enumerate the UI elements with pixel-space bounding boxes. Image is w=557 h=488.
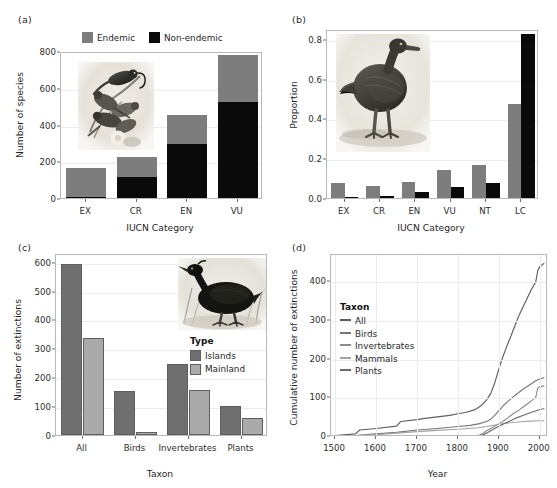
panel-a-ytick-mark: [57, 125, 60, 126]
panel-d-xtick-mark: [416, 436, 417, 439]
extinction-figure: (a) EndemicNon-endemic Number of species…: [0, 0, 557, 488]
panel-d-legend-title: Taxon: [340, 302, 414, 312]
panel-c-legend-entry: Mainland: [190, 364, 245, 375]
panel-c-xtick-mark: [241, 436, 242, 439]
panel-a-ytick-label: 600: [36, 84, 56, 94]
panel-c-ytick-mark: [52, 291, 55, 292]
panel-d-legend-label: Invertebrates: [355, 341, 414, 351]
panel-c-xtick-label: All: [76, 443, 87, 453]
panel-b-ytick-label: 0.0: [300, 194, 322, 204]
panel-a-xtick-label: EX: [80, 206, 91, 216]
panel-c-legend-title: Type: [190, 336, 245, 346]
panel-b-bar-lc-nonendemic: [521, 34, 535, 198]
panel-d-xlabel: Year: [330, 468, 545, 479]
panel-a-bar-cr-endemic: [117, 157, 157, 178]
panel-b-xtick-mark: [450, 199, 451, 202]
panel-b-xtick-label: CR: [373, 206, 385, 216]
panel-c-ytick-mark: [52, 320, 55, 321]
panel-a-legend-entry: Endemic: [82, 32, 135, 43]
panel-c-bar-plants-islands: [220, 406, 241, 435]
panel-a-ylabel: Number of species: [14, 45, 25, 185]
panel-a-xtick-mark: [186, 199, 187, 202]
panel-a-plot: [60, 52, 262, 199]
panel-c-ytick-mark: [52, 378, 55, 379]
legend-line-mammals-icon: [340, 357, 351, 359]
panel-a-bar-en-nonendemic: [167, 144, 207, 198]
panel-a-bar-vu-endemic: [218, 55, 258, 102]
panel-b-ytick-mark: [323, 199, 326, 200]
panel-a-legend: EndemicNon-endemic: [82, 32, 223, 43]
panel-d-ytick-label: 100: [304, 392, 326, 402]
panel-b: (b) Proportion IUCN Category: [278, 0, 557, 240]
panel-a-bar-ex-nonendemic: [66, 197, 106, 198]
legend-swatch-nonendemic-icon: [149, 32, 160, 43]
panel-b-xtick-label: VU: [444, 206, 456, 216]
panel-b-xtick-mark: [520, 199, 521, 202]
panel-a-ytick-mark: [57, 52, 60, 53]
panel-b-xlabel: IUCN Category: [326, 222, 536, 233]
panel-d-ytick-mark: [327, 319, 330, 320]
panel-c-ytick-label: 100: [31, 402, 51, 412]
panel-c-xtick-label: Invertebrates: [159, 443, 217, 453]
panel-c-legend: TypeIslandsMainland: [190, 336, 245, 377]
panel-d-legend-entry: Plants: [340, 366, 414, 376]
panel-a-bar-ex-endemic: [66, 168, 106, 196]
panel-d-ytick-label: 0: [304, 431, 326, 441]
panel-d-xtick-label: 1900: [487, 443, 509, 453]
panel-c-ytick-label: 300: [31, 344, 51, 354]
panel-a: (a) EndemicNon-endemic Number of species…: [0, 0, 278, 240]
panel-a-ytick-mark: [57, 162, 60, 163]
panel-d: (d) Cumulative number of extinctions Yea…: [278, 240, 557, 488]
panel-b-bar-cr-endemic: [366, 186, 380, 198]
panel-b-bar-cr-nonendemic: [380, 196, 394, 198]
panel-c-ytick-label: 600: [31, 258, 51, 268]
panel-c-ytick-mark: [52, 407, 55, 408]
panel-d-xtick-label: 1600: [364, 443, 386, 453]
legend-swatch-endemic-icon: [82, 32, 93, 43]
panel-a-xtick-mark: [85, 199, 86, 202]
panel-c-ytick-mark: [52, 262, 55, 263]
panel-c-xtick-label: Plants: [227, 443, 253, 453]
panel-b-ytick-mark: [323, 39, 326, 40]
panel-c-ytick-mark: [52, 436, 55, 437]
panel-c-bar-birds-mainland: [136, 432, 157, 435]
panel-c-ytick-label: 200: [31, 373, 51, 383]
panel-d-line-birds: [335, 378, 544, 435]
panel-b-xtick-label: LC: [515, 206, 526, 216]
panel-b-bar-en-nonendemic: [415, 192, 429, 198]
panel-b-xtick-mark: [379, 199, 380, 202]
panel-b-bar-ex-endemic: [331, 183, 345, 198]
panel-b-ytick-mark: [323, 79, 326, 80]
panel-a-xtick-mark: [136, 199, 137, 202]
panel-c-legend-entry: Islands: [190, 350, 245, 361]
panel-b-bar-en-endemic: [402, 182, 416, 199]
panel-d-ytick-mark: [327, 281, 330, 282]
panel-a-bar-en-endemic: [167, 115, 207, 144]
panel-b-xtick-mark: [344, 199, 345, 202]
panel-b-ytick-label: 0.8: [300, 35, 322, 45]
panel-a-ytick-label: 200: [36, 157, 56, 167]
panel-d-xtick-label: 1700: [405, 443, 427, 453]
panel-d-line-plants: [335, 409, 544, 435]
panel-c-xtick-label: Birds: [124, 443, 146, 453]
panel-d-legend-label: All: [355, 316, 366, 326]
panel-d-ytick-label: 200: [304, 354, 326, 364]
panel-c-ytick-label: 400: [31, 315, 51, 325]
panel-b-bar-lc-endemic: [508, 104, 522, 198]
panel-a-ytick-label: 0: [36, 194, 56, 204]
panel-c-xlabel: Taxon: [55, 468, 265, 479]
panel-b-xtick-label: EX: [338, 206, 349, 216]
panel-c-xtick-mark: [188, 436, 189, 439]
legend-swatch-mainland-icon: [190, 364, 201, 375]
panel-b-ytick-mark: [323, 119, 326, 120]
panel-b-bar-vu-endemic: [437, 170, 451, 198]
panel-c-xtick-mark: [135, 436, 136, 439]
panel-b-xtick-label: NT: [479, 206, 491, 216]
panel-c-legend-label: Mainland: [205, 364, 245, 374]
panel-b-bar-vu-nonendemic: [451, 187, 465, 198]
panel-b-ytick-mark: [323, 159, 326, 160]
panel-d-legend-entry: Invertebrates: [340, 341, 414, 351]
panel-d-xtick-label: 1800: [446, 443, 468, 453]
panel-b-ylabel: Proportion: [288, 45, 299, 165]
panel-d-ytick-label: 300: [304, 315, 326, 325]
